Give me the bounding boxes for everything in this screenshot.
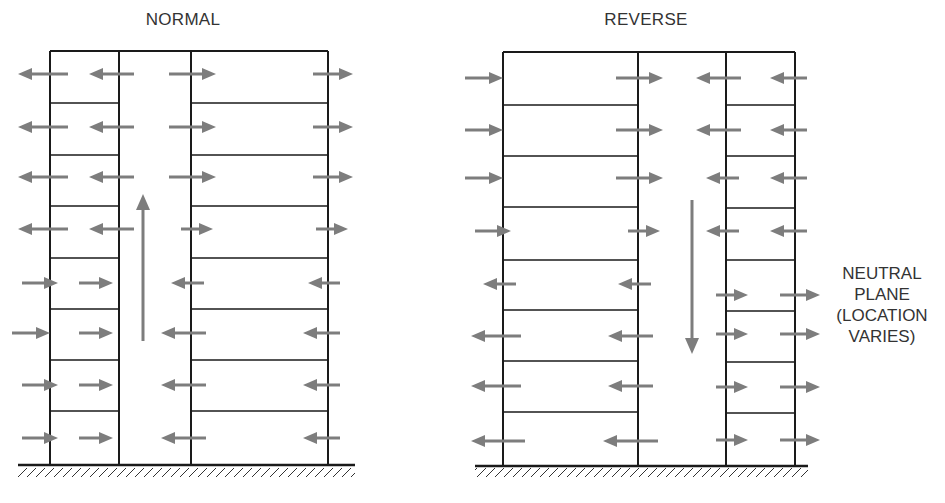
- airflow-arrow-icon: [18, 223, 68, 235]
- airflow-arrow-icon: [716, 328, 748, 340]
- airflow-arrow-icon: [12, 327, 50, 339]
- stack-effect-diagram: [0, 0, 945, 503]
- airflow-arrow-icon: [471, 380, 521, 392]
- airflow-arrow-icon: [696, 124, 741, 136]
- airflow-arrow-icon: [696, 72, 741, 84]
- airflow-arrow-icon: [18, 171, 68, 183]
- airflow-arrow-icon: [313, 68, 353, 80]
- airflow-arrow-icon: [780, 381, 820, 393]
- airflow-arrow-icon: [770, 225, 807, 237]
- airflow-arrow-icon: [716, 434, 748, 446]
- airflow-arrow-icon: [89, 171, 134, 183]
- airflow-arrow-icon: [171, 277, 204, 289]
- airflow-arrow-icon: [22, 379, 58, 391]
- airflow-arrow-icon: [161, 432, 206, 444]
- airflow-arrow-icon: [303, 379, 340, 391]
- airflow-arrow-icon: [181, 223, 213, 235]
- airflow-arrow-icon: [18, 68, 68, 80]
- airflow-arrow-icon: [79, 432, 113, 444]
- airflow-arrow-icon: [169, 68, 216, 80]
- airflow-arrow-icon: [780, 434, 820, 446]
- airflow-arrow-icon: [169, 171, 216, 183]
- airflow-arrow-icon: [79, 379, 113, 391]
- airflow-arrow-icon: [616, 124, 663, 136]
- airflow-arrow-icon: [483, 278, 516, 290]
- airflow-arrow-icon: [89, 121, 134, 133]
- airflow-arrow-icon: [308, 277, 340, 289]
- airflow-arrow-icon: [79, 327, 113, 339]
- airflow-arrow-icon: [161, 379, 206, 391]
- ground-hatch: [475, 466, 808, 484]
- airflow-arrow-icon: [780, 328, 820, 340]
- airflow-arrow-icon: [303, 327, 340, 339]
- normal-building: [12, 51, 355, 483]
- airflow-arrow-icon: [313, 121, 353, 133]
- airflow-arrow-icon: [22, 432, 58, 444]
- airflow-arrow-icon: [161, 327, 206, 339]
- airflow-arrow-icon: [169, 121, 216, 133]
- airflow-arrow-icon: [706, 225, 739, 237]
- reverse-building: [465, 52, 820, 484]
- airflow-arrow-icon: [770, 72, 807, 84]
- airflow-arrow-icon: [603, 435, 658, 447]
- airflow-arrow-icon: [616, 172, 663, 184]
- airflow-arrow-icon: [465, 124, 503, 136]
- airflow-arrow-icon: [618, 278, 651, 290]
- airflow-arrow-icon: [89, 223, 134, 235]
- airflow-arrow-icon: [471, 435, 525, 447]
- airflow-arrow-icon: [628, 225, 660, 237]
- airflow-arrow-icon: [471, 330, 521, 342]
- ground-hatch: [18, 465, 355, 483]
- airflow-arrow-icon: [716, 381, 748, 393]
- airflow-arrow-icon: [79, 277, 113, 289]
- airflow-arrow-icon: [316, 223, 348, 235]
- airflow-arrow-icon: [475, 225, 511, 237]
- airflow-arrow-icon: [608, 380, 653, 392]
- airflow-arrow-icon: [716, 289, 748, 301]
- airflow-arrow-icon: [616, 72, 663, 84]
- airflow-arrow-icon: [780, 289, 820, 301]
- airflow-arrow-icon: [89, 68, 134, 80]
- airflow-arrow-icon: [770, 172, 807, 184]
- airflow-arrow-icon: [303, 432, 340, 444]
- airflow-arrow-icon: [608, 330, 653, 342]
- airflow-arrow-icon: [22, 277, 58, 289]
- downward-airflow-arrow-icon: [685, 200, 699, 354]
- airflow-arrow-icon: [465, 172, 503, 184]
- airflow-arrow-icon: [706, 172, 739, 184]
- airflow-arrow-icon: [18, 121, 68, 133]
- airflow-arrow-icon: [465, 72, 503, 84]
- airflow-arrow-icon: [770, 124, 807, 136]
- airflow-arrow-icon: [313, 171, 353, 183]
- upward-airflow-arrow-icon: [136, 194, 150, 341]
